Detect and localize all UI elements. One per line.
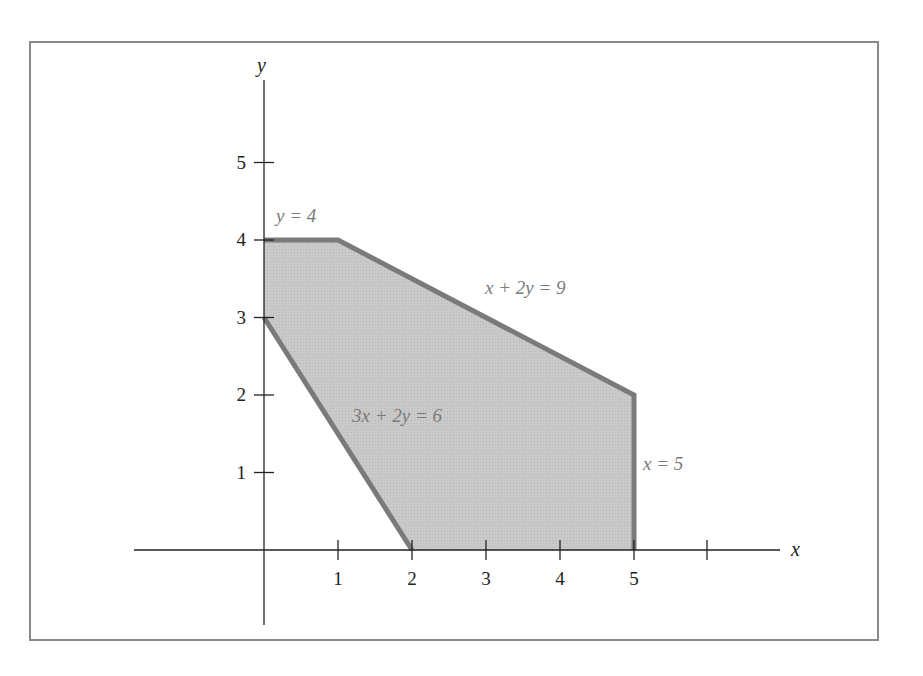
- x-tick-label: 3: [481, 568, 491, 589]
- y-axis-label: y: [255, 54, 266, 77]
- x-tick-label: 2: [407, 568, 417, 589]
- y-tick-label: 2: [237, 384, 247, 405]
- feasible-region: [264, 240, 634, 550]
- y-tick-label: 3: [237, 307, 247, 328]
- y-tick-label: 4: [237, 229, 247, 250]
- y-tick-label: 5: [237, 152, 247, 173]
- label-y-equals-4: y = 4: [274, 205, 317, 226]
- x-tick-label: 1: [333, 568, 343, 589]
- y-tick-label: 1: [237, 462, 247, 483]
- feasible-region-diagram: 1 2 3 4 5 1 2 3 4 5 x y y = 4 x + 2y = 9…: [0, 0, 923, 676]
- label-3x-plus-2y-equals-6: 3x + 2y = 6: [351, 405, 443, 426]
- label-x-equals-5: x = 5: [642, 453, 683, 474]
- x-tick-label: 4: [555, 568, 565, 589]
- x-axis-label: x: [790, 538, 800, 560]
- label-x-plus-2y-equals-9: x + 2y = 9: [484, 277, 566, 298]
- x-tick-label: 5: [629, 568, 639, 589]
